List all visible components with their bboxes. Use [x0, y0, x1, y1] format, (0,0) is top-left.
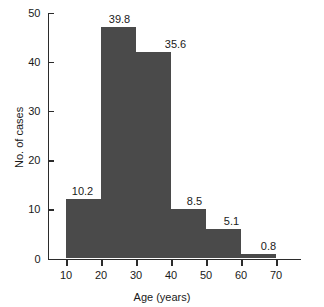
x-tick-60	[241, 260, 243, 266]
y-axis-title: No. of cases	[14, 106, 25, 167]
y-tick-50	[48, 13, 54, 15]
x-tick-70	[276, 260, 278, 266]
bar-40-50	[171, 209, 206, 258]
y-tick-label-50: 50	[3, 8, 41, 19]
x-tick-label-40: 40	[151, 270, 191, 281]
x-tick-label-70: 70	[256, 270, 296, 281]
bar-20-30	[101, 27, 136, 258]
x-tick-label-20: 20	[81, 270, 121, 281]
bar-label-50-60: 5.1	[212, 216, 252, 227]
bar-label-20-30: 39.8	[100, 14, 140, 25]
bar-label-60-70: 0.8	[249, 241, 289, 252]
y-tick-20	[48, 160, 54, 162]
x-axis-line	[48, 259, 301, 261]
x-tick-50	[206, 260, 208, 266]
bar-30-40	[136, 52, 171, 259]
bar-50-60	[206, 229, 241, 259]
x-tick-label-30: 30	[116, 270, 156, 281]
bar-10-20	[66, 199, 101, 258]
y-tick-30	[48, 111, 54, 113]
y-tick-40	[48, 62, 54, 64]
bar-60-70	[241, 254, 276, 259]
x-tick-label-60: 60	[221, 270, 261, 281]
y-tick-label-10: 10	[3, 204, 41, 215]
histogram-chart: 01020304050 10203040506070 10.239.835.68…	[0, 0, 324, 307]
y-tick-label-0: 0	[3, 254, 41, 265]
bar-label-30-40: 35.6	[156, 39, 196, 50]
x-tick-40	[171, 260, 173, 266]
x-tick-20	[101, 260, 103, 266]
x-axis-title: Age (years)	[0, 292, 324, 303]
y-tick-10	[48, 209, 54, 211]
y-tick-label-40: 40	[3, 57, 41, 68]
bar-label-40-50: 8.5	[175, 196, 215, 207]
x-tick-30	[136, 260, 138, 266]
x-tick-label-10: 10	[46, 270, 86, 281]
x-tick-label-50: 50	[186, 270, 226, 281]
bar-label-10-20: 10.2	[63, 186, 103, 197]
y-axis-line	[48, 13, 50, 259]
x-tick-10	[66, 260, 68, 266]
